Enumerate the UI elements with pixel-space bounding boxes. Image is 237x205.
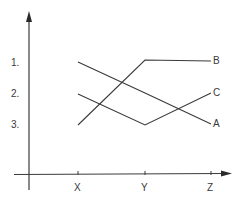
y-axis [26, 11, 32, 190]
series-label-a: A [213, 118, 220, 129]
y-label-2: 2. [11, 88, 19, 99]
x-axis-arrow-icon [221, 171, 232, 177]
series-label-b: B [213, 55, 220, 66]
series-lines [78, 60, 211, 125]
y-label-3: 3. [11, 119, 19, 130]
x-axis [14, 171, 232, 177]
series-line-a [78, 62, 211, 124]
y-labels: 1. 2. 3. [11, 57, 19, 130]
x-label-z: Z [207, 182, 213, 193]
y-label-1: 1. [11, 57, 19, 68]
series-label-c: C [213, 87, 220, 98]
x-label-x: X [74, 182, 81, 193]
x-labels: X Y Z [74, 182, 213, 193]
x-label-y: Y [141, 182, 148, 193]
y-axis-arrow-icon [26, 11, 32, 22]
rank-line-diagram: 1. 2. 3. X Y Z B C A [0, 0, 237, 205]
series-line-c [78, 93, 211, 125]
series-end-labels: B C A [213, 55, 220, 129]
